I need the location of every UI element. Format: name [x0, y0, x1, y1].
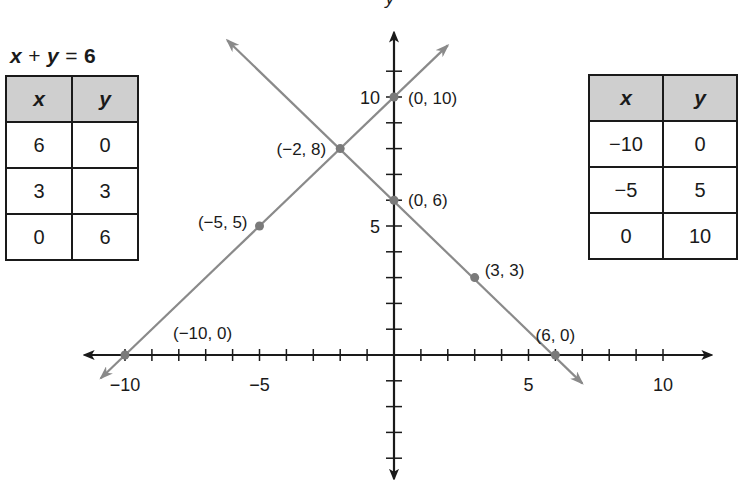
- equation-title: x+y=6: [10, 44, 96, 68]
- data-points: [121, 93, 560, 360]
- y-axis-label: y: [383, 0, 396, 8]
- data-point: [255, 222, 264, 231]
- point-label: (6, 0): [536, 326, 576, 345]
- table-row: 3 3: [6, 168, 138, 214]
- table-row: 0 6: [6, 214, 138, 260]
- point-label: (0, 10): [408, 89, 457, 108]
- x-tick-label: −10: [110, 375, 141, 395]
- data-point: [390, 196, 399, 205]
- y-tick-label: 10: [360, 88, 380, 108]
- values-table-right: x y −10 0 −5 5 0 10: [588, 74, 738, 260]
- y-tick-label: 5: [370, 217, 380, 237]
- table-row: −10 0: [589, 121, 737, 167]
- x-tick-label: 5: [523, 375, 533, 395]
- data-point: [336, 144, 345, 153]
- x-tick-label: −5: [249, 375, 270, 395]
- table-row: 6 0: [6, 122, 138, 168]
- table-header-row: x y: [589, 75, 737, 121]
- header-x: x: [6, 76, 72, 122]
- values-table-left: x y 6 0 3 3 0 6: [5, 75, 139, 261]
- x-tick-label: 10: [653, 375, 673, 395]
- point-label: (−2, 8): [277, 140, 327, 159]
- point-label: (0, 6): [408, 191, 448, 210]
- header-x: x: [589, 75, 663, 121]
- data-point: [470, 273, 479, 282]
- point-label: (−10, 0): [173, 324, 232, 343]
- point-label: (3, 3): [485, 261, 525, 280]
- point-label: (−5, 5): [198, 213, 248, 232]
- header-y: y: [72, 76, 138, 122]
- table-header-row: x y: [6, 76, 138, 122]
- table-row: −5 5: [589, 167, 737, 213]
- header-y: y: [663, 75, 737, 121]
- data-point: [121, 351, 130, 360]
- data-point: [390, 93, 399, 102]
- table-row: 0 10: [589, 213, 737, 259]
- data-point: [551, 351, 560, 360]
